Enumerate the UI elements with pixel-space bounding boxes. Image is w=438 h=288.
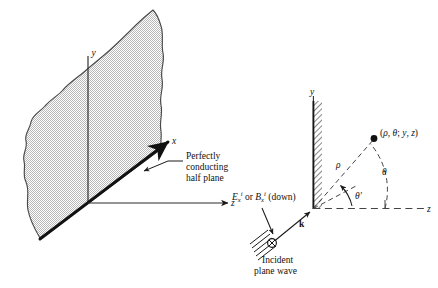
right-axis-z-label: z — [426, 204, 431, 214]
incident-wave-caption-line-2: plane wave — [254, 266, 297, 276]
polarization-field-label: Exi or Bxi (down) — [231, 190, 296, 203]
conducting-screen-hatched — [314, 101, 322, 209]
field-point-marker — [371, 135, 378, 142]
left-panel-group: y x z Perfectly conducting half plane — [24, 10, 235, 239]
half-plane-annotation-line-3: half plane — [186, 173, 224, 183]
theta-prime-arc-arrow — [341, 186, 353, 207]
field-point-label: (ρ, θ; y, z) — [380, 128, 418, 139]
left-axis-y-label: y — [91, 48, 97, 58]
physics-figure: y x z Perfectly conducting half plane y … — [0, 0, 438, 288]
radius-rho-label: ρ — [335, 160, 341, 170]
wavevector-k-arrow — [272, 212, 310, 243]
wavevector-k-label: k — [299, 219, 305, 229]
figure-canvas: y x z Perfectly conducting half plane y … — [0, 0, 438, 288]
right-axis-y-label: y — [309, 87, 315, 97]
conducting-half-plane-surface — [24, 10, 164, 238]
half-plane-annotation-line-2: conducting — [186, 162, 228, 172]
theta-label: θ — [382, 167, 387, 177]
right-panel-group: y z ρ θ (ρ, θ; y, z) θ′ k — [231, 87, 431, 276]
half-plane-annotation-line-1: Perfectly — [186, 151, 221, 161]
radius-rho-line — [313, 139, 374, 209]
half-plane-leader-line — [144, 161, 183, 171]
left-axis-x-label: x — [171, 136, 177, 146]
theta-prime-label: θ′ — [355, 191, 363, 201]
incident-wave-caption-line-1: Incident — [262, 255, 293, 265]
